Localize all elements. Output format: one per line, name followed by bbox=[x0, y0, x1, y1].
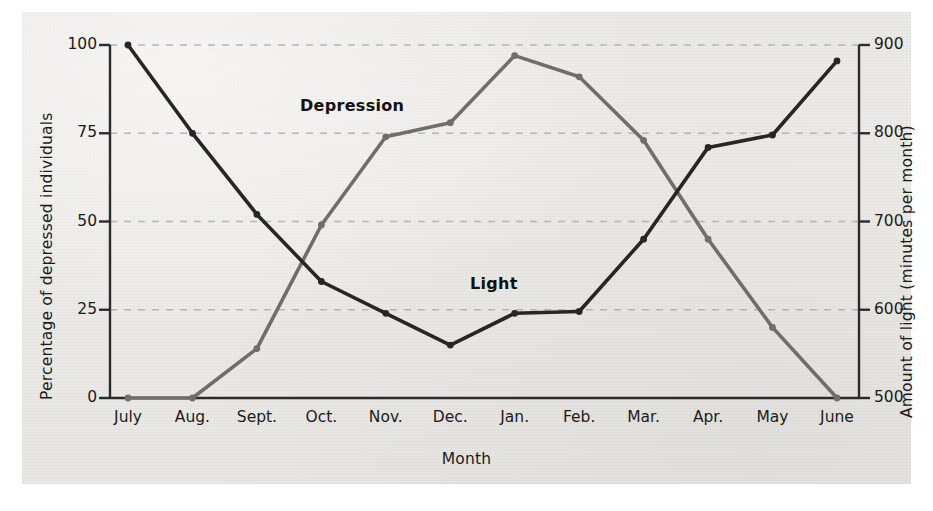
y-axis-left-tick-label: 25 bbox=[51, 300, 97, 318]
x-axis-title: Month bbox=[0, 450, 933, 468]
chart-figure: 0255075100 500600700800900 JulyAug.Sept.… bbox=[0, 0, 933, 511]
y-axis-right-title: Amount of light (minutes per month) bbox=[898, 125, 916, 418]
y-axis-left-tick-label: 75 bbox=[51, 123, 97, 141]
y-axis-left-tick-label: 50 bbox=[51, 212, 97, 230]
series-label-depression: Depression bbox=[300, 96, 404, 115]
y-axis-left-tick-label: 100 bbox=[51, 35, 97, 53]
chart-plot-area bbox=[0, 0, 933, 511]
y-axis-left-tick-label: 0 bbox=[51, 388, 97, 406]
series-label-light: Light bbox=[470, 274, 518, 293]
series-lines-group bbox=[125, 42, 841, 402]
y-axis-left-title: Percentage of depressed individuals bbox=[38, 112, 56, 400]
x-axis-tick-label: June bbox=[798, 408, 876, 426]
y-axis-right-tick-label: 900 bbox=[874, 35, 920, 53]
